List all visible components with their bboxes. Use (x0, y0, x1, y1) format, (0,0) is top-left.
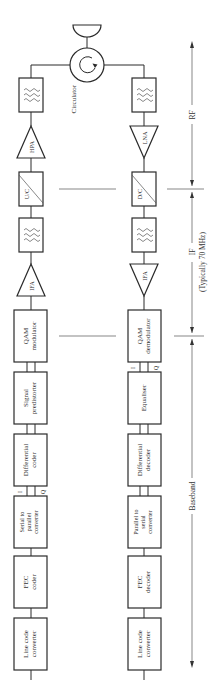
rx-equaliser: Equaliser (128, 372, 161, 424)
svg-text:converter: converter (32, 510, 39, 533)
if-note: (Typically 70 MHz) (198, 232, 207, 292)
circulator-label: Circulator (70, 84, 78, 113)
receive-chain: LNA D/C IFA QAM demodulator I Q Equalise… (128, 78, 161, 680)
rx-qam-demodulator: QAM demodulator (128, 310, 161, 362)
svg-text:modulator: modulator (30, 321, 38, 350)
svg-text:LNA: LNA (141, 131, 148, 144)
rx-if-amplifier: IFA (130, 264, 158, 296)
transmit-chain: HPA U/C IFA QAM modulator Signal predist (14, 78, 47, 680)
if-label: IF (188, 249, 197, 256)
svg-text:coder: coder (30, 452, 38, 468)
rx-rf-filter (132, 78, 156, 112)
rx-downconverter: D/C (132, 172, 156, 206)
svg-text:Signal: Signal (22, 389, 30, 407)
svg-text:FEC: FEC (136, 575, 144, 588)
svg-text:Serial to: Serial to (18, 512, 25, 533)
modem-block-diagram: Circulator HPA (0, 0, 220, 689)
svg-text:QAM: QAM (22, 327, 30, 344)
tx-upconverter: U/C (19, 172, 43, 206)
rx-if-filter (132, 218, 156, 252)
tx-rf-filter (19, 78, 43, 112)
baseband-label: Baseband (188, 481, 197, 510)
tx-q-label: Q (39, 489, 46, 494)
rx-q-label: Q (152, 365, 159, 370)
rx-fec-decoder: FEC decoder (128, 556, 161, 608)
tx-line-code-converter: Line code converter (14, 618, 47, 670)
svg-text:Line code: Line code (136, 630, 144, 658)
svg-text:U/C: U/C (23, 189, 30, 199)
svg-text:decoder: decoder (144, 448, 152, 471)
rx-differential-decoder: Differential decoder (128, 434, 161, 486)
rf-label: RF (188, 110, 197, 119)
svg-text:converter: converter (30, 630, 38, 657)
svg-text:D/C: D/C (136, 189, 143, 199)
svg-text:Equaliser: Equaliser (140, 384, 148, 411)
tx-signal-predistorter: Signal predistorter (14, 372, 47, 424)
svg-text:parallel: parallel (25, 512, 32, 531)
svg-text:decoder: decoder (144, 570, 152, 593)
svg-text:converter: converter (146, 510, 153, 533)
tx-i-label: I (16, 491, 23, 493)
svg-text:FEC: FEC (22, 575, 30, 588)
svg-text:predistorter: predistorter (30, 381, 38, 414)
svg-text:Differential: Differential (22, 444, 30, 477)
svg-text:Differential: Differential (136, 444, 144, 477)
tx-differential-coder: Differential coder (14, 434, 47, 486)
svg-text:converter: converter (144, 630, 152, 657)
rx-parallel-to-serial-converter: Parallel to serial converter (128, 496, 161, 548)
tx-if-amplifier: IFA (17, 264, 45, 296)
svg-text:Line code: Line code (22, 630, 30, 658)
tx-serial-to-parallel-converter: Serial to parallel converter (14, 496, 47, 548)
tx-hpa-amplifier: HPA (17, 126, 45, 158)
rx-i-label: I (129, 367, 136, 369)
tx-qam-modulator: QAM modulator (14, 310, 47, 362)
rx-line-code-converter: Line code converter (128, 618, 161, 670)
svg-text:IFA: IFA (28, 281, 35, 291)
circulator-icon (70, 48, 104, 82)
rx-lna-amplifier: LNA (130, 126, 158, 158)
svg-text:QAM: QAM (136, 327, 144, 344)
antenna-icon (73, 25, 101, 48)
svg-text:demodulator: demodulator (144, 318, 152, 354)
svg-text:Parallel to: Parallel to (132, 509, 139, 534)
if-range-arrow (190, 192, 194, 333)
svg-text:coder: coder (30, 574, 38, 590)
svg-text:serial: serial (139, 515, 146, 529)
tx-fec-coder: FEC coder (14, 556, 47, 608)
tx-if-filter (19, 218, 43, 252)
svg-text:HPA: HPA (28, 141, 35, 153)
svg-text:IFA: IFA (141, 271, 148, 281)
